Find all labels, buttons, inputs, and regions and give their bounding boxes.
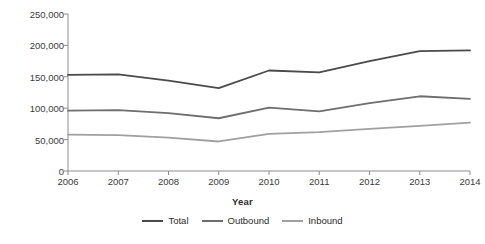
legend-label: Outbound [228,215,270,226]
legend-item-inbound[interactable]: Inbound [282,215,342,226]
legend-line-icon [282,220,303,222]
legend-item-total[interactable]: Total [142,215,188,226]
legend-line-icon [202,220,223,222]
plot-area [0,0,485,244]
line-chart: Metric tons 050,000100,000150,000200,000… [0,0,485,244]
legend-label: Inbound [308,215,342,226]
chart-legend: TotalOutboundInbound [0,215,485,226]
legend-item-outbound[interactable]: Outbound [202,215,270,226]
legend-line-icon [142,220,163,222]
legend-label: Total [168,215,188,226]
x-axis-title: Year [0,196,485,207]
